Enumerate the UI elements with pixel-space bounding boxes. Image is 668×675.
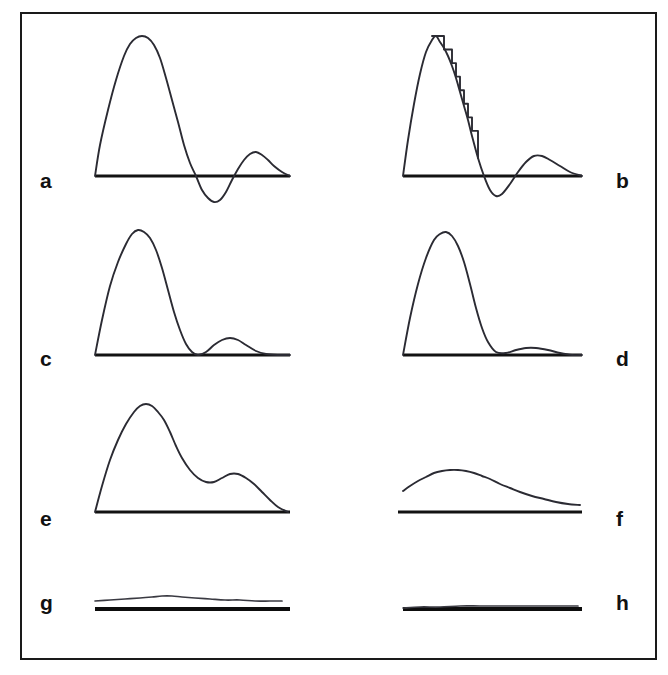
figure-outer-border bbox=[20, 12, 657, 660]
panel-label-e: e bbox=[40, 508, 52, 529]
panel-label-c: c bbox=[40, 348, 52, 369]
panel-label-h: h bbox=[616, 592, 629, 613]
panel-label-g: g bbox=[40, 592, 53, 613]
panel-label-f: f bbox=[616, 508, 623, 529]
panel-label-a: a bbox=[40, 170, 52, 191]
figure-root: a b c d e f g h bbox=[0, 0, 668, 675]
panel-label-d: d bbox=[616, 348, 629, 369]
panel-label-b: b bbox=[616, 170, 629, 191]
